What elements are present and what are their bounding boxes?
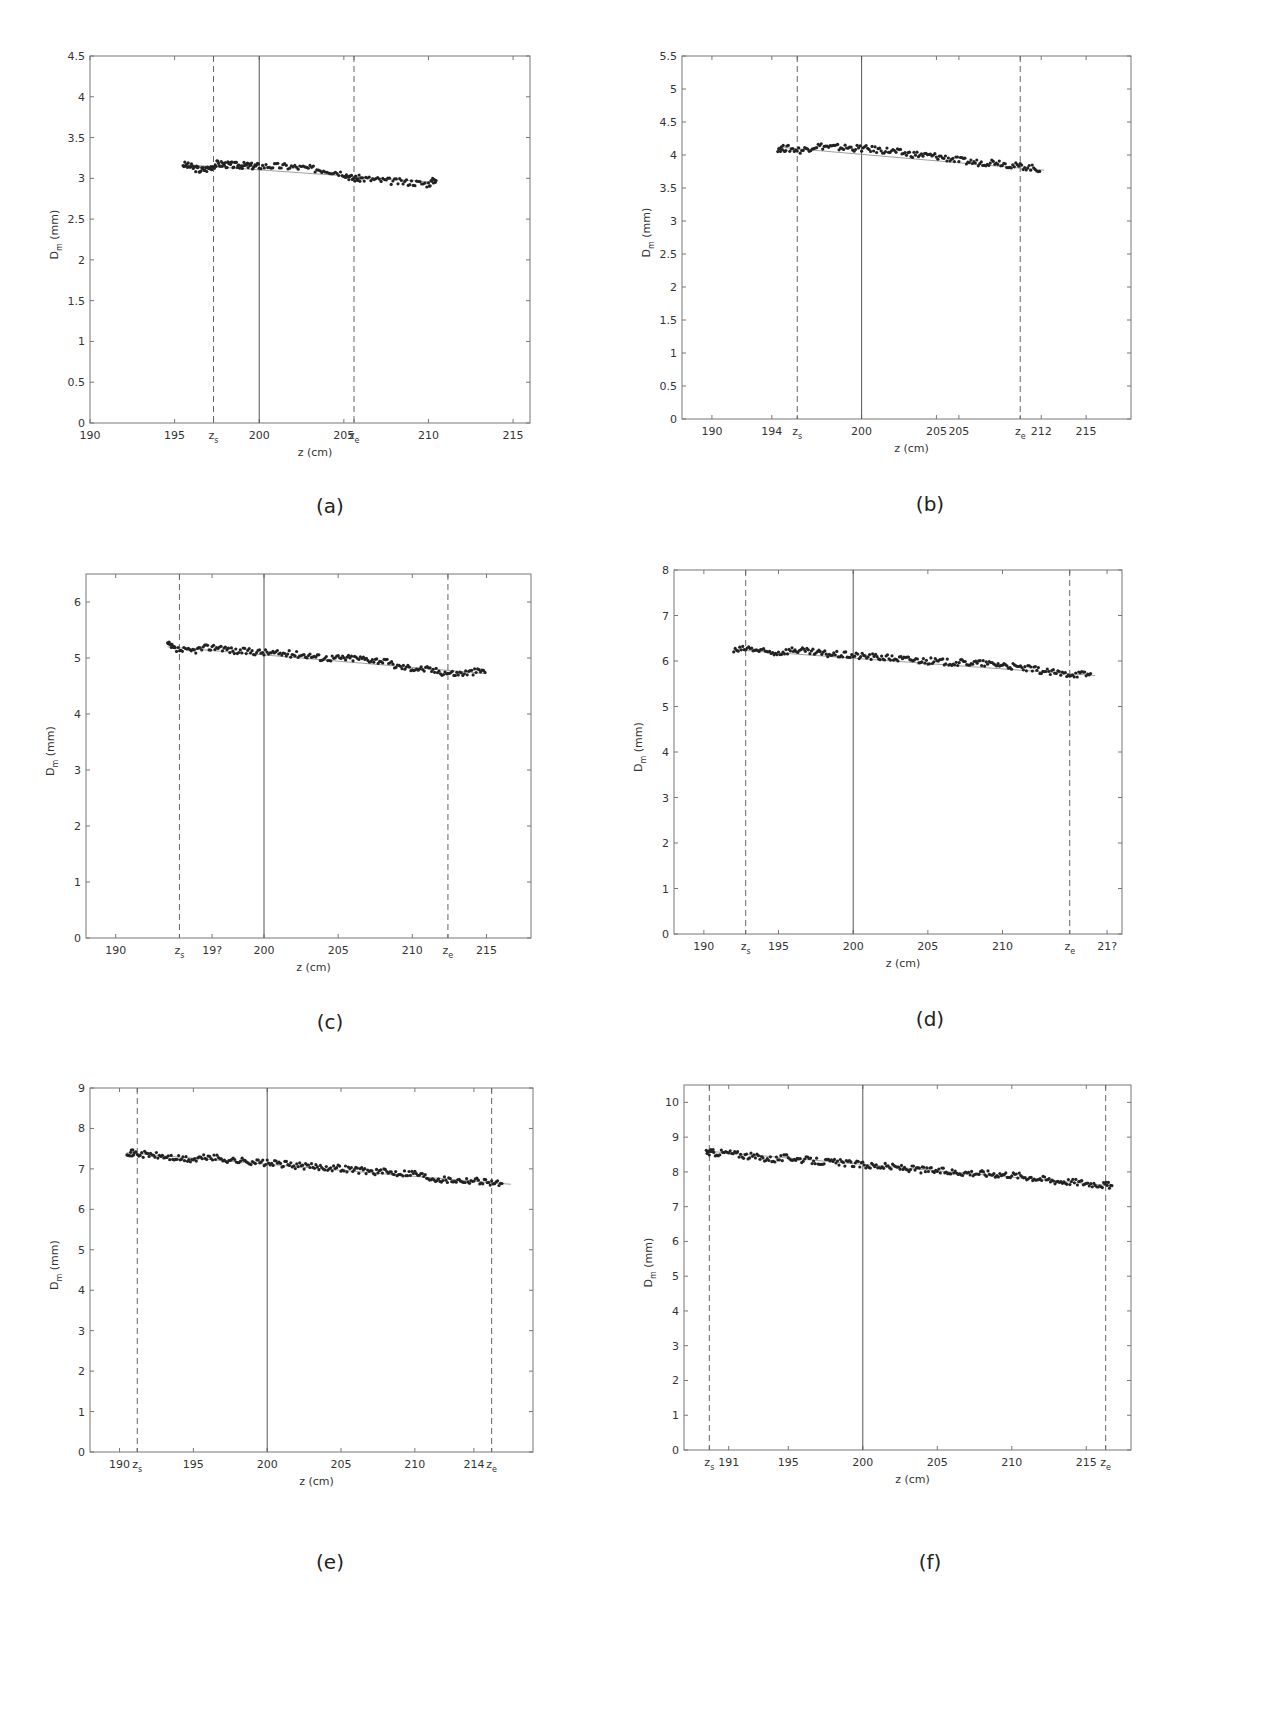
y-tick-label: 9 xyxy=(78,1082,85,1095)
plot-frame xyxy=(90,1088,533,1452)
x-tick-label: 215 xyxy=(1076,1456,1097,1469)
y-tick-label: 9 xyxy=(672,1131,679,1144)
plot-c: 0123456190zs19?200205210ze215z (cm)Dm (m… xyxy=(0,540,640,1060)
y-tick-label: 0 xyxy=(670,413,677,426)
x-tick-label: 200 xyxy=(843,940,864,953)
y-tick-label: 6 xyxy=(662,655,669,668)
x-tick-label: ze xyxy=(1015,425,1026,441)
y-tick-label: 5 xyxy=(672,1270,679,1283)
y-tick-label: 0 xyxy=(672,1444,679,1457)
y-tick-label: 5 xyxy=(74,652,81,665)
x-tick-label: ze xyxy=(1100,1456,1111,1472)
x-tick-label: 214 xyxy=(463,1458,484,1471)
caption-d: (d) xyxy=(890,1007,970,1031)
y-tick-label: 5 xyxy=(670,83,677,96)
x-tick-label: 205 xyxy=(927,1456,948,1469)
y-tick-label: 6 xyxy=(672,1235,679,1248)
y-tick-label: 3 xyxy=(672,1340,679,1353)
y-tick-label: 5 xyxy=(78,1244,85,1257)
y-tick-label: 3 xyxy=(670,215,677,228)
panel-e: 0123456789190zs195200205210214zez (cm)Dm… xyxy=(0,1060,640,1721)
y-tick-label: 1.5 xyxy=(68,295,86,308)
plot-d: 012345678190zs195200205210ze21?z (cm)Dm … xyxy=(640,540,1281,1060)
y-tick-label: 4 xyxy=(74,708,81,721)
plot-e: 0123456789190zs195200205210214zez (cm)Dm… xyxy=(0,1060,640,1721)
y-tick-label: 6 xyxy=(78,1203,85,1216)
y-tick-label: 2 xyxy=(74,820,81,833)
x-tick-label: 195 xyxy=(164,429,185,442)
y-tick-label: 1 xyxy=(74,876,81,889)
x-tick-label: ze xyxy=(486,1458,497,1474)
y-axis-label: Dm (mm) xyxy=(48,1240,64,1290)
y-tick-label: 4.5 xyxy=(68,50,86,63)
x-tick-label: 212 xyxy=(1031,425,1052,438)
x-tick-label: 205 xyxy=(331,1458,352,1471)
y-tick-label: 7 xyxy=(672,1201,679,1214)
y-tick-label: 0.5 xyxy=(660,380,678,393)
plot-frame xyxy=(90,56,530,423)
y-tick-label: 1 xyxy=(662,883,669,896)
x-tick-label: 210 xyxy=(1001,1456,1022,1469)
x-tick-label: zs xyxy=(741,940,751,956)
y-tick-label: 3 xyxy=(662,792,669,805)
y-axis-label: Dm (mm) xyxy=(48,210,64,260)
x-tick-label: 190 xyxy=(109,1458,130,1471)
x-tick-label: 210 xyxy=(402,944,423,957)
y-tick-label: 6 xyxy=(74,596,81,609)
caption-b: (b) xyxy=(890,492,970,516)
x-tick-label: 190 xyxy=(701,425,722,438)
x-tick-label: 200 xyxy=(254,944,275,957)
x-tick-label: 210 xyxy=(404,1458,425,1471)
y-tick-label: 2 xyxy=(672,1374,679,1387)
x-tick-label: 200 xyxy=(851,425,872,438)
x-tick-label: 215 xyxy=(476,944,497,957)
y-tick-label: 3.5 xyxy=(660,182,678,195)
y-tick-label: 8 xyxy=(672,1166,679,1179)
x-tick-label: ze xyxy=(443,944,454,960)
y-tick-label: 1 xyxy=(672,1409,679,1422)
y-tick-label: 5 xyxy=(662,701,669,714)
x-tick-label: 210 xyxy=(992,940,1013,953)
y-tick-label: 4 xyxy=(672,1305,679,1318)
y-tick-label: 2.5 xyxy=(660,248,678,261)
y-tick-label: 3 xyxy=(78,172,85,185)
y-tick-label: 4 xyxy=(78,91,85,104)
x-tick-label: 195 xyxy=(768,940,789,953)
plot-frame xyxy=(674,570,1122,934)
y-tick-label: 2 xyxy=(662,837,669,850)
x-tick-label: 205 xyxy=(917,940,938,953)
x-tick-label: 215 xyxy=(503,429,524,442)
y-axis-label: Dm (mm) xyxy=(44,726,60,776)
panel-b: 00.511.522.533.544.555.5190194zs20020520… xyxy=(640,0,1281,540)
x-tick-label: 195 xyxy=(183,1458,204,1471)
y-tick-label: 0 xyxy=(74,932,81,945)
x-tick-label: zs xyxy=(132,1458,142,1474)
caption-e: (e) xyxy=(290,1550,370,1574)
x-axis-label: z (cm) xyxy=(886,957,921,970)
y-tick-label: 4 xyxy=(662,746,669,759)
x-tick-label: zs xyxy=(704,1456,714,1472)
plot-f: 012345678910zs191195200205210215zez (cm)… xyxy=(640,1060,1281,1721)
x-tick-label: zs xyxy=(209,429,219,445)
plot-frame xyxy=(682,56,1131,419)
x-tick-label: 200 xyxy=(249,429,270,442)
y-axis-label: Dm (mm) xyxy=(642,1238,658,1288)
y-tick-label: 0.5 xyxy=(68,376,86,389)
x-tick-label: ze xyxy=(1064,940,1075,956)
y-tick-label: 8 xyxy=(78,1122,85,1135)
x-axis-label: z (cm) xyxy=(894,442,929,455)
y-tick-label: 8 xyxy=(662,564,669,577)
panel-a: 00.511.522.533.544.5190195zs200205ze2102… xyxy=(0,0,640,540)
caption-a: (a) xyxy=(290,494,370,518)
y-tick-label: 0 xyxy=(662,928,669,941)
x-tick-label: 200 xyxy=(852,1456,873,1469)
y-tick-label: 4.5 xyxy=(660,116,678,129)
x-tick-label: 205 xyxy=(328,944,349,957)
x-axis-label: z (cm) xyxy=(299,1475,334,1488)
plot-frame xyxy=(86,574,531,938)
y-axis-label: Dm (mm) xyxy=(640,208,656,258)
x-tick-label: ze xyxy=(349,429,360,445)
y-tick-label: 7 xyxy=(662,610,669,623)
y-tick-label: 0 xyxy=(78,1446,85,1459)
plot-a: 00.511.522.533.544.5190195zs200205ze2102… xyxy=(0,0,640,540)
